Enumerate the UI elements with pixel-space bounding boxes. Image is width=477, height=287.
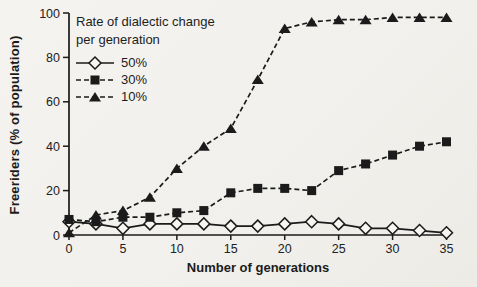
legend-label: 10% — [121, 89, 147, 104]
open-diamond-marker — [387, 222, 399, 234]
filled-triangle-marker — [117, 206, 129, 216]
filled-triangle-marker — [306, 17, 318, 27]
y-tick-label: 0 — [53, 229, 60, 243]
x-tick-label: 0 — [66, 242, 73, 256]
x-tick-label: 30 — [386, 242, 400, 256]
filled-square-marker — [415, 142, 424, 151]
legend-item-50pct: 50% — [76, 54, 215, 71]
filled-square-marker — [253, 184, 262, 193]
open-diamond-marker — [117, 222, 129, 234]
open-diamond-marker — [198, 218, 210, 230]
x-tick-label: 25 — [332, 242, 346, 256]
filled-square-marker — [280, 184, 289, 193]
open-diamond-marker — [360, 222, 372, 234]
x-tick-label: 35 — [440, 242, 454, 256]
legend-item-30pct: 30% — [76, 71, 215, 88]
x-tick-label: 20 — [278, 242, 292, 256]
open-diamond-marker — [441, 227, 453, 239]
y-tick-label: 100 — [39, 7, 60, 21]
filled-triangle-marker — [63, 228, 75, 238]
y-tick-label: 40 — [46, 140, 60, 154]
legend: Rate of dialectic change per generation … — [76, 13, 215, 105]
legend-label: 30% — [121, 72, 147, 87]
legend-swatch-marker — [89, 92, 101, 102]
filled-square-dashed-line-swatch — [76, 72, 114, 88]
filled-triangle-marker — [252, 75, 264, 85]
open-diamond-marker — [306, 216, 318, 228]
filled-triangle-marker — [171, 163, 183, 173]
legend-swatch-svg — [76, 72, 114, 88]
open-diamond-marker — [279, 218, 291, 230]
filled-triangle-marker — [225, 123, 237, 133]
filled-triangle-dashed-line-swatch — [76, 89, 114, 105]
legend-title-line-2: per generation — [76, 31, 215, 49]
line-chart-canvas: 02040608010005101520253035 — [0, 0, 477, 287]
open-diamond-marker — [225, 220, 237, 232]
legend-label: 50% — [121, 55, 147, 70]
filled-square-marker — [226, 188, 235, 197]
filled-triangle-marker — [144, 192, 156, 202]
filled-triangle-marker — [387, 12, 399, 22]
x-tick-label: 15 — [224, 242, 238, 256]
legend-swatch-marker — [91, 75, 100, 84]
filled-square-marker — [334, 166, 343, 175]
filled-square-marker — [145, 213, 154, 222]
filled-square-marker — [388, 151, 397, 160]
y-tick-label: 20 — [46, 184, 60, 198]
filled-square-marker — [361, 159, 370, 168]
legend-item-10pct: 10% — [76, 88, 215, 105]
legend-swatch-svg — [76, 89, 114, 105]
open-diamond-solid-line-swatch — [76, 55, 114, 71]
x-axis-title: Number of generations — [187, 260, 329, 275]
filled-square-marker — [442, 137, 451, 146]
legend-rows: 50% 30% 10% — [76, 54, 215, 105]
x-tick-label: 5 — [119, 242, 126, 256]
filled-square-marker — [65, 215, 74, 224]
open-diamond-marker — [333, 218, 345, 230]
y-tick-label: 80 — [46, 51, 60, 65]
legend-swatch-marker — [89, 57, 101, 69]
open-diamond-marker — [252, 220, 264, 232]
y-axis-title: Freeriders (% of population) — [7, 36, 22, 215]
open-diamond-marker — [171, 218, 183, 230]
legend-title-line-1: Rate of dialectic change — [76, 13, 215, 31]
filled-square-marker — [199, 206, 208, 215]
y-tick-label: 60 — [46, 95, 60, 109]
x-tick-label: 10 — [170, 242, 184, 256]
legend-swatch-svg — [76, 55, 114, 71]
filled-square-marker — [307, 186, 316, 195]
scanned-figure-page: 02040608010005101520253035 Freeriders (%… — [0, 0, 477, 287]
filled-square-marker — [172, 208, 181, 217]
